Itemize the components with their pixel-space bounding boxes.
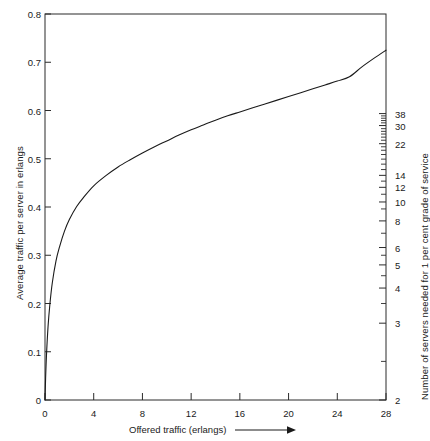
right-tick-label: 30 (395, 120, 406, 131)
axis-frame (45, 14, 386, 400)
left-tick-label: 0.7 (5, 57, 41, 68)
data-curve (45, 50, 386, 400)
right-axis-ticks (379, 114, 386, 400)
x-axis-title: Offered traffic (erlangs) (0, 424, 426, 435)
right-tick-label: 6 (395, 242, 400, 253)
x-tick-label: 12 (186, 408, 197, 419)
x-tick-label: 24 (332, 408, 343, 419)
right-tick-label: 4 (395, 283, 400, 294)
right-tick-label: 5 (395, 259, 400, 270)
bottom-axis-ticks (45, 393, 386, 400)
right-tick-label: 8 (395, 215, 400, 226)
x-axis-title-text: Offered traffic (erlangs) (129, 424, 226, 435)
right-tick-label: 10 (395, 196, 406, 207)
left-tick-label: 0.6 (5, 105, 41, 116)
left-tick-label: 0.8 (5, 9, 41, 20)
right-tick-label: 14 (395, 170, 406, 181)
left-tick-label: 0 (5, 395, 41, 406)
x-tick-label: 20 (283, 408, 294, 419)
right-axis-title: Number of servers needed for 1 per cent … (419, 153, 430, 400)
right-tick-label: 38 (395, 108, 406, 119)
x-tick-label: 16 (235, 408, 246, 419)
x-tick-label: 4 (91, 408, 96, 419)
right-tick-label: 2 (395, 395, 400, 406)
x-tick-label: 28 (381, 408, 392, 419)
right-tick-label: 22 (395, 138, 406, 149)
left-axis-ticks (45, 14, 51, 400)
right-tick-label: 12 (395, 182, 406, 193)
x-tick-label: 0 (42, 408, 47, 419)
arrow-right-icon (235, 425, 297, 435)
right-tick-label: 3 (395, 318, 400, 329)
left-axis-title: Average traffic per server in erlangs (14, 146, 25, 300)
left-tick-label: 0.1 (5, 346, 41, 357)
x-tick-label: 8 (140, 408, 145, 419)
